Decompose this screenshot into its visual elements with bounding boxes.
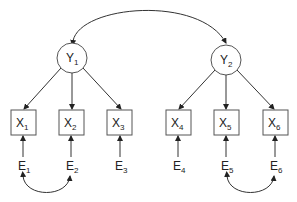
observed-node-x3: X3	[107, 110, 132, 135]
observed-node-x5: X5	[214, 110, 239, 135]
observed-node-x1: X1	[11, 110, 36, 135]
latent-node-y2: Y2	[211, 45, 241, 75]
covariance-y1-y2	[73, 10, 226, 43]
sem-diagram: Y1 Y2 X1 X2 X3 X4 X5 X6	[0, 0, 297, 202]
error-paths	[23, 136, 275, 157]
error-label-e4: E4	[173, 159, 186, 175]
error-label-e6: E6	[270, 159, 283, 175]
error-label-e5: E5	[221, 159, 234, 175]
observed-node-x2: X2	[59, 110, 84, 135]
latent-node-y1: Y1	[57, 43, 87, 73]
error-label-e1: E1	[18, 159, 31, 175]
covariance-e1-e2	[23, 176, 70, 193]
observed-node-x4: X4	[166, 110, 191, 135]
error-label-e2: E2	[66, 159, 79, 175]
error-label-e3: E3	[115, 159, 128, 175]
loadings	[24, 68, 274, 109]
observed-node-x6: X6	[263, 110, 288, 135]
covariance-e5-e6	[227, 176, 274, 193]
